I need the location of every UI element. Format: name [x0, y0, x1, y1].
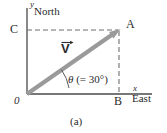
figure-caption: (a) — [70, 116, 82, 127]
vector-diagram-canvas — [0, 0, 167, 133]
point-a-label: A — [126, 18, 135, 30]
east-direction-label: East — [132, 93, 151, 104]
vector-diagram-figure: y North x East C A B 0 V θ (= 30°) (a) — [0, 0, 167, 133]
north-direction-label: North — [34, 6, 60, 17]
point-c-label: C — [10, 23, 18, 35]
origin-label: 0 — [14, 95, 20, 106]
angle-theta-label: θ (= 30°) — [68, 74, 108, 85]
angle-theta-value: (= 30°) — [76, 73, 108, 85]
vector-v-label: V — [61, 42, 70, 55]
point-b-label: B — [114, 95, 122, 107]
